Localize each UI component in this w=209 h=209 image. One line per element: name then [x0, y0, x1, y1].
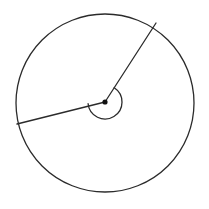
- figure-canvas: Circle with two radii forming a reflex c…: [0, 0, 209, 209]
- circle-reflex-angle-diagram: Circle with two radii forming a reflex c…: [0, 0, 209, 209]
- radius-upper-right: [105, 23, 156, 102]
- center-vertex-dot: [102, 99, 107, 104]
